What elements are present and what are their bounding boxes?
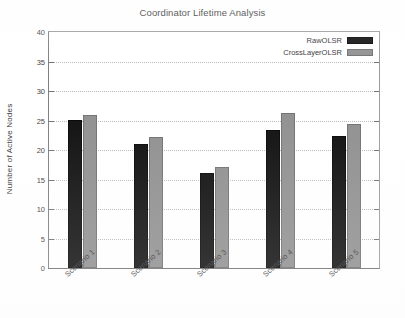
y-axis-tick-label: 35 (37, 57, 45, 66)
bar-rawolsr (266, 130, 280, 268)
legend-label-rawolsr: RawOLSR (307, 36, 342, 45)
y-axis-tick-label: 0 (41, 264, 45, 273)
bars-layer (49, 32, 379, 268)
legend-item-crosslayerolsr: CrossLayerOLSR (283, 48, 373, 57)
y-axis-tick-label: 15 (37, 175, 45, 184)
y-axis-tick-label: 20 (37, 146, 45, 155)
bar-rawolsr (68, 120, 82, 268)
legend-item-rawolsr: RawOLSR (307, 36, 373, 45)
legend-swatch-rawolsr (347, 37, 373, 44)
bar-group (200, 32, 229, 268)
chart-title: Coordinator Lifetime Analysis (0, 7, 405, 18)
y-axis-tick-label: 10 (37, 205, 45, 214)
bar-rawolsr (332, 136, 346, 268)
y-axis-tick-label: 30 (37, 87, 45, 96)
bar-crosslayerolsr (281, 113, 295, 268)
legend-label-crosslayerolsr: CrossLayerOLSR (283, 48, 342, 57)
bar-rawolsr (200, 173, 214, 268)
chart-figure: Coordinator Lifetime Analysis Number of … (0, 0, 405, 318)
plot-area: 0510152025303540 RawOLSR CrossLayerOLSR (48, 31, 380, 269)
y-axis-tick-label: 25 (37, 116, 45, 125)
bar-group (68, 32, 97, 268)
bar-group (332, 32, 361, 268)
bar-rawolsr (134, 144, 148, 268)
y-axis-tick-label: 5 (41, 234, 45, 243)
y-axis-tick-label: 40 (37, 28, 45, 37)
bar-crosslayerolsr (83, 115, 97, 268)
chart-legend: RawOLSR CrossLayerOLSR (279, 35, 375, 59)
legend-swatch-crosslayerolsr (347, 49, 373, 56)
bar-group (134, 32, 163, 268)
bar-group (266, 32, 295, 268)
y-axis-title: Number of Active Nodes (5, 104, 14, 195)
